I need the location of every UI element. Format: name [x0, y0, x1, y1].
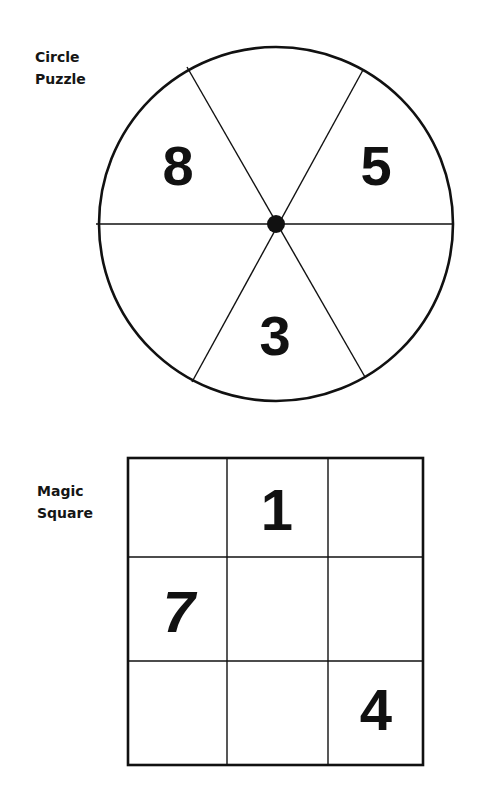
segment-upper-right[interactable]: 5 [360, 134, 391, 197]
center-dot [267, 215, 285, 233]
segment-upper-left[interactable]: 8 [162, 134, 193, 197]
cell-r2c1[interactable]: 7 [163, 579, 198, 644]
cell-r3c3-value: 4 [360, 677, 392, 742]
segment-bottom-value: 3 [259, 304, 290, 367]
cell-r1c2-value: 1 [261, 477, 293, 542]
cell-r3c3[interactable]: 4 [360, 677, 392, 742]
circle-puzzle: 5 3 8 [96, 47, 453, 401]
segment-upper-left-value: 8 [162, 134, 193, 197]
cell-r1c2[interactable]: 1 [261, 477, 293, 542]
cell-r2c1-value: 7 [163, 579, 198, 644]
magic-square: 1 7 4 [128, 458, 423, 765]
segment-bottom[interactable]: 3 [259, 304, 290, 367]
segment-upper-right-value: 5 [360, 134, 391, 197]
puzzle-canvas: 5 3 8 1 7 4 [0, 0, 483, 799]
